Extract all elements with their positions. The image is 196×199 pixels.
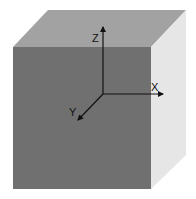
y-axis-label: Y: [69, 106, 77, 118]
cube-front-face: [13, 47, 151, 189]
z-axis-label: Z: [92, 32, 99, 44]
x-axis-label: X: [151, 81, 159, 93]
cube-diagram: Z X Y: [0, 0, 196, 199]
